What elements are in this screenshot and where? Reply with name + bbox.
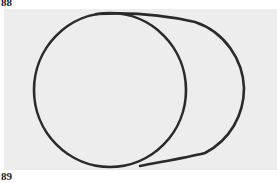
front-circle <box>34 13 186 167</box>
cylinder-sketch <box>0 0 277 183</box>
figure-number-bottom: 89 <box>1 171 12 182</box>
cylinder-outline <box>96 13 244 166</box>
